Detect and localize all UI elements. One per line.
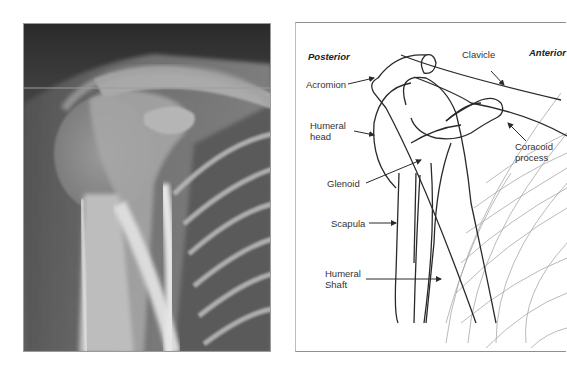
posterior-label: Posterior [308,51,350,62]
coracoid-process-label-line2: process [515,152,548,163]
bone-outline [372,55,567,323]
humeral-head-label-line1: Humeral [310,120,346,131]
scapula-label: Scapula [331,218,365,229]
humeral-shaft-label-line2: Shaft [325,279,347,290]
shoulder-anatomy-diagram: Posterior Anterior Clavicle Acromion Hum… [295,22,566,352]
shoulder-xray-image [23,23,271,352]
humeral-shaft-label-line1: Humeral [325,268,361,279]
clavicle-label: Clavicle [462,49,495,60]
ribs-outline [446,93,567,348]
humeral-head-label-line2: head [310,131,331,142]
acromion-label: Acromion [306,79,346,90]
coracoid-process-label-line1: Coracoid [515,141,553,152]
anterior-label: Anterior [529,47,566,58]
glenoid-label: Glenoid [327,178,360,189]
